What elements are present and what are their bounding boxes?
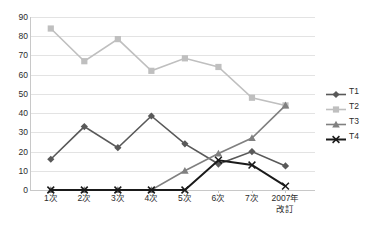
legend-item-T1[interactable]: T1 [325, 84, 375, 99]
y-axis-tick-label: 40 [2, 109, 28, 118]
gridline [30, 132, 315, 133]
triangle-icon [325, 116, 347, 127]
y-axis-tick-label: 80 [2, 32, 28, 41]
gridline [30, 36, 315, 37]
diamond-marker [332, 91, 339, 98]
square-marker [333, 106, 339, 112]
y-axis-tick-label: 30 [2, 128, 28, 137]
square-icon [325, 101, 347, 112]
y-axis-tick-label: 70 [2, 51, 28, 60]
x-axis-tick-labels: 1次2次3次4次5次6次7次2007年改訂 [0, 193, 376, 229]
gridline [30, 17, 315, 18]
legend-label: T4 [349, 132, 359, 141]
gridline [30, 75, 315, 76]
x-icon [325, 131, 347, 142]
gridline [30, 113, 315, 114]
legend-item-T3[interactable]: T3 [325, 114, 375, 129]
y-axis-line [30, 17, 31, 191]
plot-area [30, 17, 315, 190]
chart-legend: T1T2T3T4 [325, 84, 375, 144]
y-axis-tick-label: 10 [2, 167, 28, 176]
legend-label: T3 [349, 117, 359, 126]
legend-label: T2 [349, 102, 359, 111]
legend-item-T2[interactable]: T2 [325, 99, 375, 114]
gridline [30, 94, 315, 95]
gridline [30, 171, 315, 172]
y-axis-tick-label: 90 [2, 13, 28, 22]
y-axis-tick-label: 60 [2, 71, 28, 80]
y-axis-tick-label: 20 [2, 148, 28, 157]
y-axis-tick-label: 50 [2, 90, 28, 99]
x-axis-tick-label: 2007年改訂 [262, 193, 308, 214]
line-chart: 9080706050403020100 1次2次3次4次5次6次7次2007年改… [0, 0, 376, 231]
x-axis-line [30, 190, 315, 191]
y-axis-tick-labels: 9080706050403020100 [0, 17, 28, 190]
legend-label: T1 [349, 87, 359, 96]
diamond-icon [325, 86, 347, 97]
gridline [30, 55, 315, 56]
gridline [30, 152, 315, 153]
legend-item-T4[interactable]: T4 [325, 129, 375, 144]
